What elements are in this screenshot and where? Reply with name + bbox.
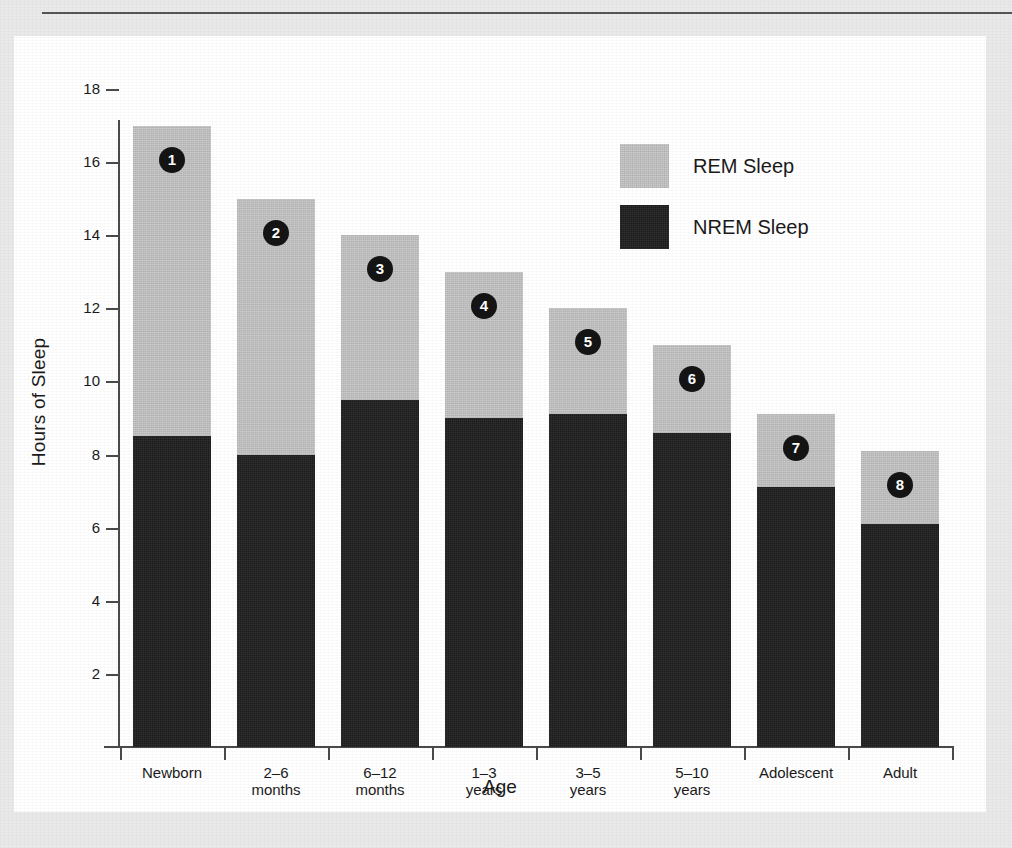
x-category-label: 6–12months [328, 764, 432, 798]
figure-panel: Hours of Sleep Age 24681012141618 123456… [14, 36, 986, 812]
legend-item-rem[interactable]: REM Sleep [620, 144, 940, 188]
bar-stack[interactable]: 3 [341, 235, 419, 747]
legend-item-nrem[interactable]: NREM Sleep [620, 205, 940, 249]
y-tick-label: 12 [50, 299, 100, 316]
x-category-label: 2–6months [224, 764, 328, 798]
bar-number-badge: 1 [159, 147, 185, 173]
x-category-label: 3–5years [536, 764, 640, 798]
y-tick-mark [106, 162, 119, 164]
y-tick-mark [106, 89, 119, 91]
x-tick-mark [952, 748, 954, 760]
bar-number-badge: 5 [575, 329, 601, 355]
bar-stack[interactable]: 7 [757, 414, 835, 747]
y-tick-label: 10 [50, 372, 100, 389]
y-tick-mark [106, 528, 119, 530]
y-tick-label: 8 [50, 446, 100, 463]
x-category-label: 5–10years [640, 764, 744, 798]
y-tick-mark [106, 674, 119, 676]
x-tick-mark [640, 748, 642, 760]
y-tick-mark [106, 455, 119, 457]
bar-segment-nrem[interactable] [341, 400, 419, 747]
y-tick-label: 14 [50, 226, 100, 243]
bar-segment-nrem[interactable] [861, 524, 939, 747]
legend-swatch-rem-icon [620, 144, 669, 188]
x-category-label: Newborn [120, 764, 224, 781]
y-tick-mark [106, 308, 119, 310]
x-category-label: Adolescent [744, 764, 848, 781]
bar-number-badge: 4 [471, 293, 497, 319]
x-tick-mark [848, 748, 850, 760]
bar-stack[interactable]: 6 [653, 345, 731, 747]
chart-legend: REM Sleep NREM Sleep [620, 144, 940, 266]
x-category-label: 1–3years [432, 764, 536, 798]
x-tick-mark [432, 748, 434, 760]
y-tick-mark [106, 601, 119, 603]
bar-number-badge: 7 [783, 435, 809, 461]
y-axis-title: Hours of Sleep [28, 302, 50, 502]
y-tick-mark [106, 235, 119, 237]
bar-number-badge: 8 [887, 472, 913, 498]
bar-segment-nrem[interactable] [653, 433, 731, 747]
x-tick-mark [120, 748, 122, 760]
page-top-rule [42, 12, 1012, 14]
x-tick-mark [328, 748, 330, 760]
y-tick-mark [106, 381, 119, 383]
bar-number-badge: 6 [679, 366, 705, 392]
y-tick-label: 2 [50, 665, 100, 682]
y-axis-line [118, 120, 120, 748]
y-tick-label: 18 [50, 80, 100, 97]
bar-segment-nrem[interactable] [237, 455, 315, 747]
legend-label-rem: REM Sleep [693, 155, 794, 178]
bar-number-badge: 2 [263, 220, 289, 246]
y-tick-label: 16 [50, 153, 100, 170]
bar-segment-nrem[interactable] [549, 414, 627, 747]
bar-stack[interactable]: 1 [133, 126, 211, 747]
bar-stack[interactable]: 5 [549, 308, 627, 747]
bar-stack[interactable]: 8 [861, 451, 939, 747]
bar-stack[interactable]: 2 [237, 199, 315, 747]
bar-stack[interactable]: 4 [445, 272, 523, 747]
legend-swatch-nrem-icon [620, 205, 669, 249]
legend-label-nrem: NREM Sleep [693, 216, 809, 239]
bar-number-badge: 3 [367, 256, 393, 282]
bar-segment-nrem[interactable] [133, 436, 211, 747]
x-tick-mark [536, 748, 538, 760]
x-tick-mark [744, 748, 746, 760]
y-tick-label: 4 [50, 592, 100, 609]
y-tick-label: 6 [50, 519, 100, 536]
plot-area: Hours of Sleep Age 24681012141618 123456… [14, 36, 986, 812]
bar-segment-rem[interactable] [549, 308, 627, 414]
x-tick-mark [224, 748, 226, 760]
bar-segment-nrem[interactable] [445, 418, 523, 747]
bar-segment-nrem[interactable] [757, 487, 835, 747]
x-category-label: Adult [848, 764, 952, 781]
